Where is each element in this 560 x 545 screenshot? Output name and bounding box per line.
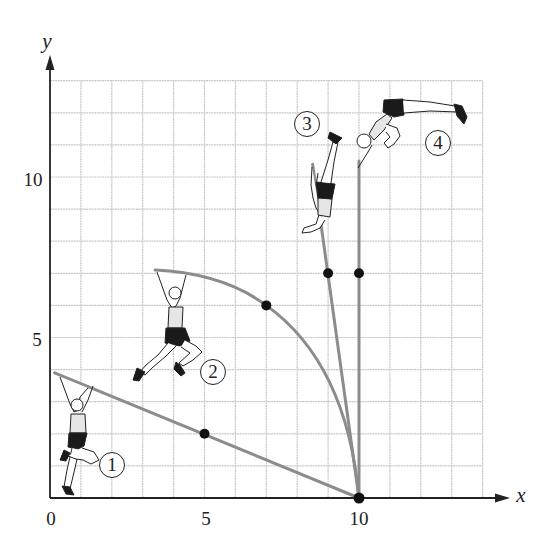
stage-label-1: 1 <box>99 452 125 478</box>
pivot-dot <box>354 493 365 504</box>
athlete-1-figure <box>60 377 99 495</box>
y-tick-5: 5 <box>32 330 42 349</box>
pole-vault-diagram: y x 0 5 10 5 10 1 2 3 4 <box>0 0 560 545</box>
x-tick-0: 0 <box>46 509 56 528</box>
grid <box>50 81 483 498</box>
athlete-3-figure <box>302 132 342 233</box>
athlete-4-figure <box>357 99 467 168</box>
marker-dots <box>200 268 365 503</box>
axes <box>46 55 511 503</box>
x-axis-arrow-icon <box>495 494 510 503</box>
y-tick-10: 10 <box>24 170 43 189</box>
y-axis-label: y <box>42 31 51 52</box>
marker-dot-2 <box>261 300 271 310</box>
poles <box>55 161 359 498</box>
athletes <box>60 99 467 495</box>
stage-label-3: 3 <box>294 111 320 137</box>
diagram-canvas <box>0 0 560 545</box>
athlete-2-figure <box>133 272 202 381</box>
y-axis-arrow-icon <box>46 55 55 70</box>
x-tick-5: 5 <box>201 509 211 528</box>
marker-dot-3 <box>323 268 333 278</box>
marker-dot-1 <box>200 429 210 439</box>
stage-label-2: 2 <box>200 359 226 385</box>
x-axis-label: x <box>516 485 525 506</box>
x-tick-10: 10 <box>350 509 369 528</box>
stage-label-4: 4 <box>425 130 451 156</box>
marker-dot-4 <box>354 268 364 278</box>
